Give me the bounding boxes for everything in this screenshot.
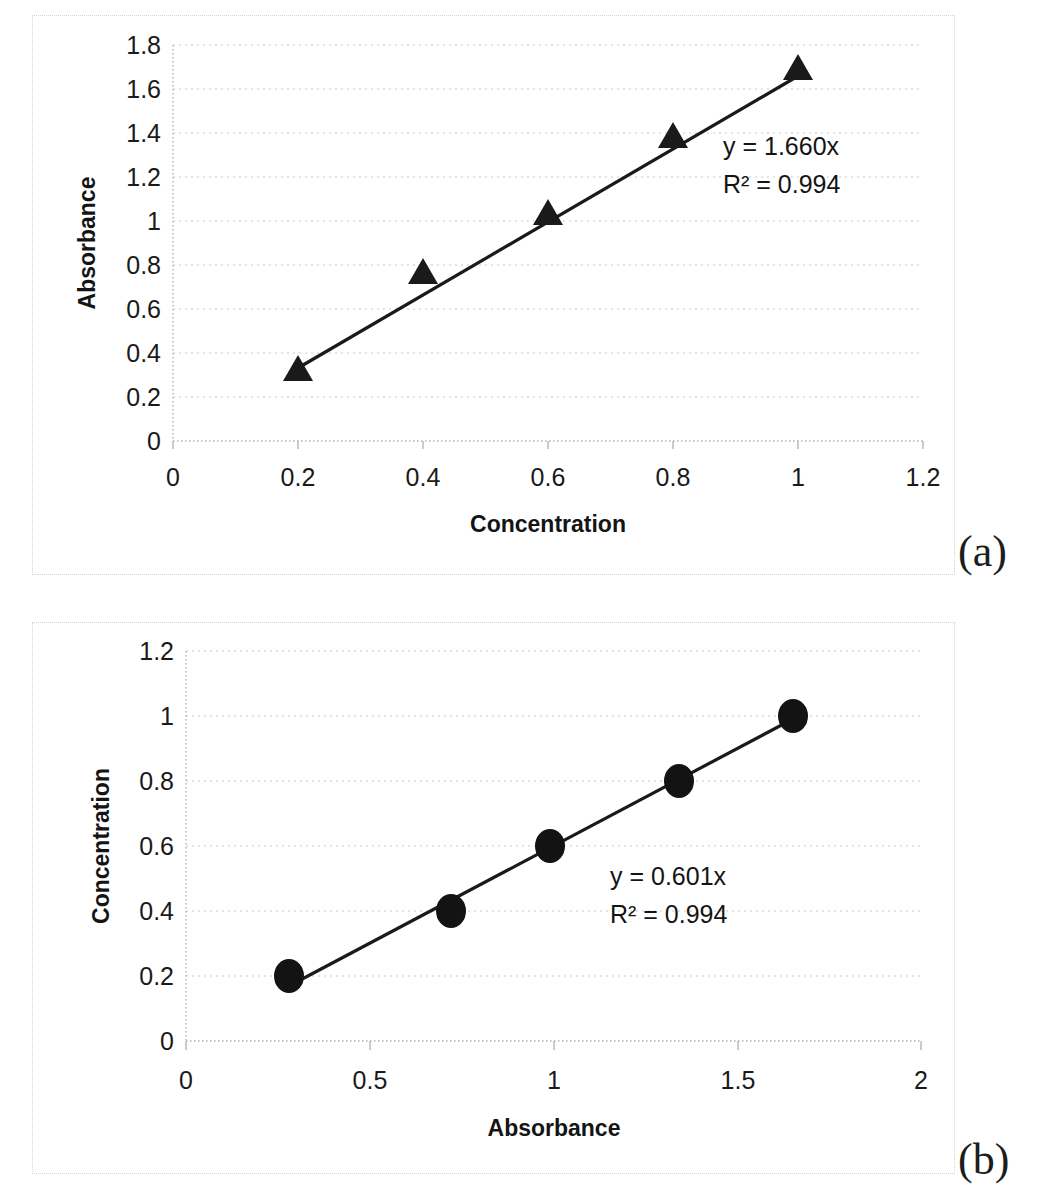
x-tick-label: 1.5 (721, 1066, 756, 1094)
y-tick-label: 1.4 (126, 119, 161, 147)
data-point-marker (664, 764, 694, 798)
x-tick-label: 0 (166, 463, 180, 491)
chart-b-equation-annotation: y = 0.601x R² = 0.994 (610, 862, 728, 928)
x-tick-label: 0.5 (353, 1066, 388, 1094)
y-tick-label: 0.6 (126, 295, 161, 323)
panel-caption-a: (a) (958, 530, 1007, 574)
x-tick-label: 0.6 (531, 463, 566, 491)
y-tick-label: 0 (160, 1027, 174, 1055)
x-tick-label: 2 (914, 1066, 928, 1094)
y-tick-label: 0.6 (139, 832, 174, 860)
y-tick-label: 0.8 (126, 251, 161, 279)
chart-a-equation-annotation: y = 1.660x R² = 0.994 (723, 132, 841, 198)
data-point-marker (436, 894, 466, 928)
r-squared-value: R² = 0.994 (610, 900, 728, 928)
regression-equation: y = 1.660x (723, 132, 840, 160)
chart-b-y-axis-title: Concentration (88, 768, 114, 924)
data-point-marker (658, 122, 688, 148)
chart-a-y-axis-title: Absorbance (74, 177, 100, 310)
chart-b-x-tick-labels: 0 0.5 1 1.5 2 (179, 1066, 928, 1094)
chart-a-y-tick-labels: 0 0.2 0.4 0.6 0.8 1 1.2 1.4 1.6 1.8 (126, 31, 161, 455)
chart-b-y-tick-labels: 0 0.2 0.4 0.6 0.8 1 1.2 (139, 637, 174, 1055)
data-point-marker (408, 258, 438, 284)
y-tick-label: 1.6 (126, 75, 161, 103)
data-point-marker (783, 54, 813, 80)
regression-equation: y = 0.601x (610, 862, 727, 890)
y-tick-label: 0.2 (139, 962, 174, 990)
x-tick-label: 1 (791, 463, 805, 491)
data-point-marker (778, 699, 808, 733)
y-tick-label: 0.2 (126, 383, 161, 411)
y-tick-label: 1 (147, 207, 161, 235)
y-tick-label: 0.8 (139, 767, 174, 795)
data-point-marker (533, 199, 563, 225)
chart-a-x-tickmarks (173, 441, 923, 449)
data-point-marker (274, 959, 304, 993)
panel-caption-b: (b) (958, 1138, 1009, 1182)
chart-a-x-axis-title: Concentration (470, 511, 626, 537)
y-tick-label: 0.4 (139, 897, 174, 925)
chart-panel-a: 0 0.2 0.4 0.6 0.8 1 1.2 1.4 1.6 1.8 0 0.… (32, 15, 955, 575)
y-tick-label: 1.2 (139, 637, 174, 665)
chart-b-gridlines (186, 651, 921, 976)
chart-b-x-tickmarks (186, 1041, 921, 1050)
y-tick-label: 0 (147, 427, 161, 455)
r-squared-value: R² = 0.994 (723, 170, 841, 198)
y-tick-label: 1 (160, 702, 174, 730)
data-point-marker (535, 829, 565, 863)
chart-a-x-tick-labels: 0 0.2 0.4 0.6 0.8 1 1.2 (166, 463, 940, 491)
y-tick-label: 1.8 (126, 31, 161, 59)
x-tick-label: 0.4 (406, 463, 441, 491)
y-tick-label: 0.4 (126, 339, 161, 367)
x-tick-label: 0.8 (656, 463, 691, 491)
x-tick-label: 0.2 (281, 463, 316, 491)
x-tick-label: 0 (179, 1066, 193, 1094)
data-point-marker (283, 355, 313, 381)
chart-b-plot: 0 0.2 0.4 0.6 0.8 1 1.2 0 0.5 1 1.5 2 (33, 623, 954, 1173)
chart-panel-b: 0 0.2 0.4 0.6 0.8 1 1.2 0 0.5 1 1.5 2 (32, 622, 955, 1174)
chart-a-plot: 0 0.2 0.4 0.6 0.8 1 1.2 1.4 1.6 1.8 0 0.… (33, 16, 954, 574)
chart-b-x-axis-title: Absorbance (488, 1115, 621, 1141)
x-tick-label: 1 (547, 1066, 561, 1094)
y-tick-label: 1.2 (126, 163, 161, 191)
x-tick-label: 1.2 (906, 463, 941, 491)
